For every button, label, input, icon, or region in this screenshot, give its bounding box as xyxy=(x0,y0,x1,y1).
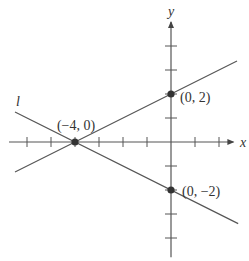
point-0-2 xyxy=(167,90,174,97)
x-axis-label: x xyxy=(239,135,247,150)
point-neg4-0 xyxy=(71,138,78,145)
coordinate-plane: x y l (−4, 0) (0, 2) (0, −2) xyxy=(0,0,249,261)
line-through-neg4-0-and-0-2 xyxy=(15,61,237,172)
coordinate-diagram: x y l (−4, 0) (0, 2) (0, −2) xyxy=(0,0,249,261)
y-axis-label: y xyxy=(166,4,175,19)
axes xyxy=(9,22,233,257)
point-label-0-neg2: (0, −2) xyxy=(182,184,221,200)
point-0-neg2 xyxy=(167,186,174,193)
point-label-0-2: (0, 2) xyxy=(180,90,211,106)
line-l xyxy=(15,112,238,224)
line-l-label: l xyxy=(16,94,20,109)
point-label-neg4-0: (−4, 0) xyxy=(57,118,96,134)
